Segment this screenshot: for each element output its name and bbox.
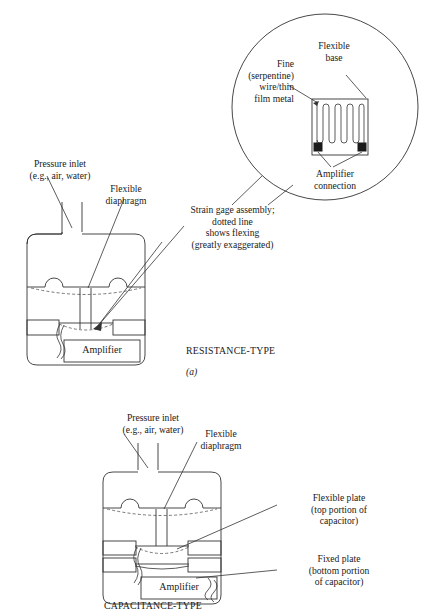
caption-capacitance-type: CAPACITANCE-TYPE [104, 600, 202, 611]
amplifier-label-b: Amplifier [141, 581, 217, 592]
fixed-plate-lower-b [135, 566, 189, 569]
left-chamber-lower-b [103, 558, 136, 572]
upper-diaphragm-shelf-b [103, 499, 221, 508]
left-chamber-upper-b [103, 541, 136, 555]
label-flexible-plate: Flexible plate (top portion of capacitor… [280, 492, 398, 527]
label-fixed-plate: Fixed plate (bottom portion of capacitor… [280, 553, 398, 588]
flexible-plate-flex-dashed-b [135, 547, 189, 554]
pressure-inlet-neck-b [138, 443, 158, 470]
leader-pressure-inlet-b [124, 434, 148, 468]
figure-page: Fine (serpentine) wire/thin film metal F… [0, 0, 423, 615]
right-chamber-lower-b [188, 558, 221, 572]
label-pressure-inlet-b: Pressure inlet (e.g., air, water) [101, 412, 205, 435]
leader-fixed-plate-b [196, 570, 277, 578]
upper-diaphragm-flex-dashed-b [107, 509, 217, 516]
leader-flexible-plate-b [177, 505, 277, 549]
label-flexible-diaphragm-b: Flexible diaphragm [192, 428, 250, 451]
right-chamber-upper-b [188, 541, 221, 555]
